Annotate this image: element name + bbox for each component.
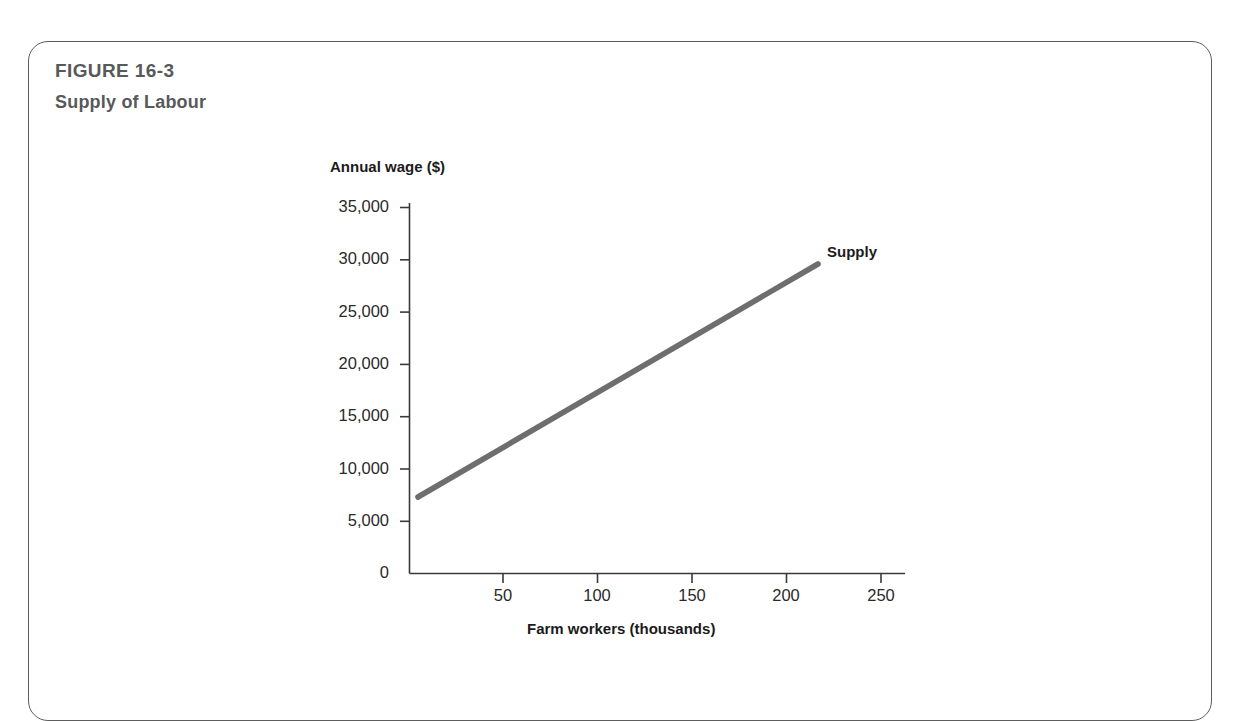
y-tick-label-30000: 30,000 [259, 249, 389, 268]
y-tick-label-35000: 35,000 [259, 197, 389, 216]
y-tick-label-5000: 5,000 [259, 511, 389, 530]
x-tick-label-50: 50 [482, 586, 524, 605]
y-tick-label-10000: 10,000 [259, 459, 389, 478]
y-tick-label-25000: 25,000 [259, 302, 389, 321]
y-tick-label-0: 0 [259, 563, 389, 582]
supply-line [418, 264, 818, 497]
x-tick-label-200: 200 [765, 586, 807, 605]
y-tick-label-15000: 15,000 [259, 406, 389, 425]
x-axis-ticks [503, 574, 881, 584]
y-axis-ticks [400, 208, 410, 522]
x-tick-label-100: 100 [576, 586, 618, 605]
x-tick-label-250: 250 [860, 586, 902, 605]
y-tick-label-20000: 20,000 [259, 354, 389, 373]
supply-curve-label: Supply [827, 243, 877, 260]
x-tick-label-150: 150 [671, 586, 713, 605]
